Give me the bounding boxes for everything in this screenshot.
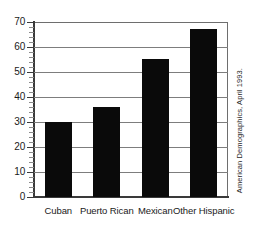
- x-axis-category-label: Other Hispanic: [154, 205, 254, 216]
- y-axis-tick-major: [27, 122, 34, 123]
- y-axis-tick-label: 20: [1, 142, 25, 152]
- source-credit-label: American Demographics, April 1993.: [236, 68, 244, 193]
- y-axis-tick-major: [27, 72, 34, 73]
- y-axis-tick-label: 70: [1, 17, 25, 27]
- y-axis-tick-label: 60: [1, 42, 25, 52]
- y-axis-tick-label: 50: [1, 67, 25, 77]
- bar: [93, 107, 120, 197]
- y-axis-tick-major: [27, 197, 34, 198]
- bar: [45, 122, 72, 197]
- bar: [142, 59, 169, 197]
- y-axis-tick-label: 40: [1, 92, 25, 102]
- y-axis-tick-major: [27, 22, 34, 23]
- y-axis-tick-label: 10: [1, 167, 25, 177]
- y-axis-tick-label: 0: [1, 192, 25, 202]
- y-axis-tick-label: 30: [1, 117, 25, 127]
- y-axis-tick-major: [27, 97, 34, 98]
- bar: [190, 29, 217, 197]
- y-axis-tick-major: [27, 147, 34, 148]
- bar-series: [34, 22, 228, 197]
- chart-figure: 010203040506070 CubanPuerto RicanMexican…: [0, 0, 260, 232]
- y-axis-tick-major: [27, 172, 34, 173]
- y-axis-tick-major: [27, 47, 34, 48]
